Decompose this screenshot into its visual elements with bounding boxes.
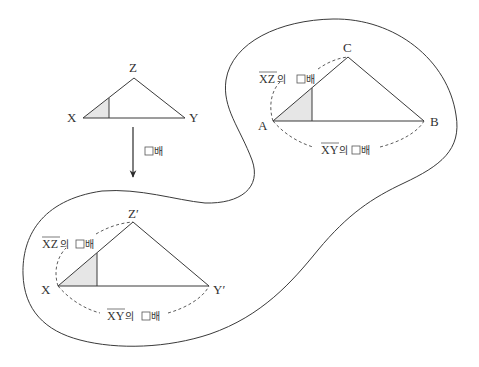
side-label-xz: XZ 의 배 (42, 237, 94, 251)
blank-box-icon (352, 146, 360, 154)
vertex-label-z: Z (129, 60, 137, 75)
vertex-label-x: X (67, 110, 77, 125)
vertex-label-a: A (258, 118, 268, 133)
triangle-abc: A C B XZ 의 배 XY 의 배 (258, 40, 439, 157)
dashed-arc-xy-right (168, 286, 209, 313)
segment-name-xy: XY (321, 143, 339, 157)
vertex-label-c: C (343, 40, 352, 55)
side-label-xy: XY 의 배 (321, 143, 370, 157)
blank-box-icon (297, 75, 305, 83)
blank-box-icon (142, 312, 150, 320)
blank-box-icon (76, 240, 84, 248)
particle-text: 의 (60, 239, 69, 250)
dashed-arc-xy-right (380, 121, 424, 147)
dashed-arc-xy-left (58, 286, 100, 313)
side-label-xy: XY 의 배 (107, 309, 160, 323)
particle-text: 의 (339, 145, 348, 156)
vertex-label-z-prime: Z′ (128, 206, 139, 221)
suffix-text: 배 (85, 239, 94, 250)
suffix-text: 배 (151, 311, 160, 322)
scale-factor-suffix: 배 (154, 146, 163, 157)
vertex-label-y: Y (189, 110, 199, 125)
segment-name-xy: XY (107, 309, 125, 323)
scaled-triangle: X Z′ Y′ XZ 의 배 XY 의 배 (41, 206, 225, 323)
dashed-arc-xz-lower (271, 82, 280, 121)
dashed-arc-xz-upper (318, 57, 348, 69)
particle-text: 의 (125, 311, 134, 322)
vertex-label-b: B (430, 114, 439, 129)
dashed-arc-xy-left (273, 121, 313, 147)
suffix-text: 배 (361, 145, 370, 156)
dashed-arc-xz-upper (96, 222, 133, 234)
diagram-canvas: X Z Y 배 A C B XZ 의 (0, 0, 479, 367)
vertex-label-y-prime: Y′ (213, 282, 225, 297)
suffix-text: 배 (306, 74, 315, 85)
original-triangle: X Z Y (67, 60, 199, 125)
vertex-label-x: X (41, 282, 51, 297)
segment-name-xz: XZ (259, 72, 275, 86)
scaling-arrow: 배 (133, 127, 163, 177)
side-label-xz: XZ 의 배 (259, 72, 315, 86)
region-blob-outline (23, 19, 457, 346)
particle-text: 의 (277, 74, 286, 85)
segment-name-xz: XZ (42, 237, 58, 251)
blank-box-icon (145, 147, 153, 155)
